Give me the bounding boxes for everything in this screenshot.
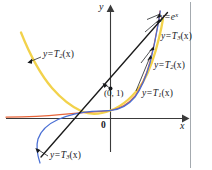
origin-label: 0 (101, 121, 106, 131)
curve-label-T2-right: y=T2(x) (154, 61, 185, 71)
label-argument-x: (x) (162, 88, 173, 98)
leader-line-T1-right (136, 55, 152, 91)
label-exponent-x: x (175, 11, 178, 18)
taylor-polynomial-figure: x y 0 (0, 1) y=ex y=T3(x) y=T2(x) y=T1(x… (0, 0, 212, 170)
curve-label-T3-bottom: y=T3(x) (50, 151, 81, 161)
label-argument-x: (x) (181, 31, 192, 41)
label-argument-x: (x) (63, 49, 74, 59)
curve-exp (6, 11, 160, 117)
label-argument-x: (x) (70, 150, 81, 160)
y-axis-arrowhead (107, 5, 115, 13)
curve-label-T2-left: y=T2(x) (43, 50, 74, 60)
point-label-0-1: (0, 1) (104, 89, 124, 98)
label-argument-x: (x) (174, 60, 185, 70)
curve-label-exp: y=ex (160, 12, 178, 22)
x-axis-label: x (180, 121, 184, 131)
curve-label-T1-right: y=T1(x) (142, 89, 173, 99)
curve-label-T3-right: y=T3(x) (161, 32, 192, 42)
figure-canvas (0, 0, 212, 170)
y-axis-label: y (99, 2, 103, 12)
